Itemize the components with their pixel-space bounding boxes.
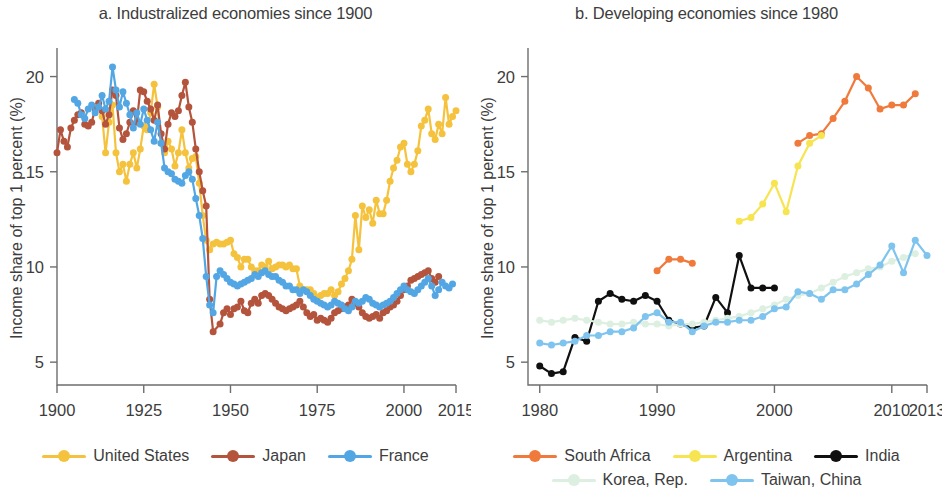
x-tick-label: 1950 bbox=[212, 401, 249, 419]
x-tick-label: 2015 bbox=[438, 401, 471, 419]
panel-b-plot-area: 510152019801990200020102013 bbox=[471, 30, 942, 420]
legend-label: United States bbox=[93, 447, 189, 465]
x-tick-label: 2000 bbox=[756, 401, 793, 419]
x-tick-label: 2010 bbox=[873, 401, 910, 419]
x-tick-label: 1990 bbox=[639, 401, 676, 419]
legend-label: India bbox=[865, 447, 900, 465]
legend-item[interactable]: United States bbox=[42, 447, 211, 465]
legend-item[interactable]: Japan bbox=[211, 447, 328, 465]
panel-b-legend-row-2: Korea, Rep.Taiwan, China bbox=[471, 468, 942, 492]
legend-label: Taiwan, China bbox=[761, 471, 862, 489]
legend-item[interactable]: Korea, Rep. bbox=[552, 471, 710, 489]
panel-b-title: b. Developing economies since 1980 bbox=[471, 4, 942, 23]
y-tick-label: 20 bbox=[497, 68, 515, 86]
legend-item[interactable]: Taiwan, China bbox=[710, 471, 862, 489]
panel-b-series-group bbox=[536, 73, 930, 377]
legend-item[interactable]: South Africa bbox=[513, 447, 672, 465]
legend-marker-icon bbox=[552, 473, 596, 487]
legend-label: Japan bbox=[262, 447, 306, 465]
legend-marker-icon bbox=[710, 473, 754, 487]
data-series bbox=[536, 237, 930, 349]
panel-a-legend-row: United StatesJapanFrance bbox=[0, 444, 471, 468]
x-tick-label: 1900 bbox=[39, 401, 76, 419]
y-tick-label: 5 bbox=[506, 353, 515, 371]
legend-item[interactable]: India bbox=[814, 447, 900, 465]
panel-a-title: a. Industralized economies since 1900 bbox=[0, 4, 471, 23]
panel-b-legend-row-1: South AfricaArgentinaIndia bbox=[471, 444, 942, 468]
data-series bbox=[736, 132, 825, 225]
x-tick-label: 2000 bbox=[386, 401, 423, 419]
legend-marker-icon bbox=[513, 449, 557, 463]
panel-b-tick-labels: 510152019801990200020102013 bbox=[497, 68, 942, 419]
y-tick-label: 10 bbox=[497, 258, 515, 276]
data-series bbox=[654, 73, 919, 274]
legend-marker-icon bbox=[42, 449, 86, 463]
x-tick-label: 1980 bbox=[521, 401, 558, 419]
panel-a: a. Industralized economies since 1900 In… bbox=[0, 0, 471, 498]
panel-b-axes bbox=[521, 48, 927, 393]
panel-b-legend: South AfricaArgentinaIndia Korea, Rep.Ta… bbox=[471, 444, 942, 492]
y-tick-label: 15 bbox=[497, 163, 515, 181]
x-tick-label: 2013 bbox=[909, 401, 942, 419]
data-series bbox=[71, 64, 456, 317]
legend-marker-icon bbox=[328, 449, 372, 463]
legend-marker-icon bbox=[814, 449, 858, 463]
panel-a-series-group bbox=[54, 64, 460, 336]
panel-b: b. Developing economies since 1980 Incom… bbox=[471, 0, 942, 498]
panel-b-svg: 510152019801990200020102013 bbox=[471, 30, 942, 420]
y-tick-label: 20 bbox=[26, 68, 44, 86]
x-tick-label: 1975 bbox=[299, 401, 336, 419]
y-tick-label: 10 bbox=[26, 258, 44, 276]
legend-item[interactable]: France bbox=[328, 447, 429, 465]
panel-a-legend: United StatesJapanFrance bbox=[0, 444, 471, 468]
figure-two-panel-chart: a. Industralized economies since 1900 In… bbox=[0, 0, 943, 498]
legend-item[interactable]: Argentina bbox=[673, 447, 815, 465]
legend-label: France bbox=[379, 447, 429, 465]
legend-label: Argentina bbox=[724, 447, 793, 465]
y-tick-label: 5 bbox=[35, 353, 44, 371]
legend-marker-icon bbox=[673, 449, 717, 463]
legend-label: South Africa bbox=[564, 447, 650, 465]
x-tick-label: 1925 bbox=[125, 401, 162, 419]
legend-label: Korea, Rep. bbox=[603, 471, 688, 489]
panel-a-svg: 5101520190019251950197520002015 bbox=[0, 30, 471, 420]
panel-a-plot-area: 5101520190019251950197520002015 bbox=[0, 30, 471, 420]
legend-marker-icon bbox=[211, 449, 255, 463]
y-tick-label: 15 bbox=[26, 163, 44, 181]
